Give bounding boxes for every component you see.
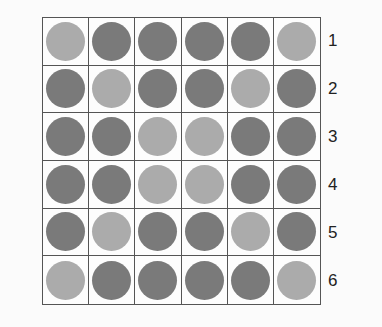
light-circle-icon <box>46 22 85 61</box>
grid-cell <box>135 66 181 114</box>
grid-cell <box>228 18 274 66</box>
grid-cell <box>89 209 135 257</box>
light-circle-icon <box>138 165 177 204</box>
dark-circle-icon <box>92 22 131 61</box>
row-label-3: 3 <box>328 113 358 161</box>
dark-circle-icon <box>185 261 224 300</box>
grid-cell <box>182 66 228 114</box>
row-label-2: 2 <box>328 65 358 113</box>
grid-cell <box>89 18 135 66</box>
dark-circle-icon <box>46 212 85 251</box>
dark-circle-icon <box>277 117 316 156</box>
dark-circle-icon <box>92 117 131 156</box>
grid-cell <box>228 66 274 114</box>
grid-cell <box>228 256 274 304</box>
dark-circle-icon <box>46 69 85 108</box>
grid-cell <box>274 66 320 114</box>
dark-circle-icon <box>185 22 224 61</box>
dark-circle-icon <box>231 165 270 204</box>
row-label-6: 6 <box>328 257 358 305</box>
grid-cell <box>43 66 89 114</box>
grid-cell <box>89 256 135 304</box>
row-label-1: 1 <box>328 17 358 65</box>
dark-circle-icon <box>138 22 177 61</box>
grid-cell <box>43 209 89 257</box>
light-circle-icon <box>138 117 177 156</box>
light-circle-icon <box>92 212 131 251</box>
grid-cell <box>274 161 320 209</box>
light-circle-icon <box>46 261 85 300</box>
grid-cell <box>228 113 274 161</box>
grid-cell <box>274 113 320 161</box>
dark-circle-icon <box>185 212 224 251</box>
dark-circle-icon <box>231 261 270 300</box>
dark-circle-icon <box>185 69 224 108</box>
grid-cell <box>43 256 89 304</box>
grid-cell <box>135 256 181 304</box>
grid-cell <box>228 209 274 257</box>
grid-cell <box>43 18 89 66</box>
grid-cell <box>274 256 320 304</box>
dark-circle-icon <box>138 69 177 108</box>
light-circle-icon <box>277 261 316 300</box>
grid-cell <box>274 18 320 66</box>
grid-cell <box>274 209 320 257</box>
grid-cell <box>135 161 181 209</box>
grid-cell <box>89 161 135 209</box>
grid-cell <box>43 161 89 209</box>
light-circle-icon <box>185 165 224 204</box>
circle-grid <box>42 17 321 305</box>
row-label-5: 5 <box>328 209 358 257</box>
grid-cell <box>89 66 135 114</box>
grid-cell <box>43 113 89 161</box>
grid-cell <box>182 18 228 66</box>
light-circle-icon <box>92 69 131 108</box>
grid-cell <box>135 113 181 161</box>
row-label-4: 4 <box>328 161 358 209</box>
grid-cell <box>135 18 181 66</box>
light-circle-icon <box>231 212 270 251</box>
dark-circle-icon <box>92 165 131 204</box>
light-circle-icon <box>231 69 270 108</box>
dark-circle-icon <box>231 22 270 61</box>
grid-cell <box>182 161 228 209</box>
grid-cell <box>182 209 228 257</box>
grid-cell <box>135 209 181 257</box>
dark-circle-icon <box>138 261 177 300</box>
grid-cell <box>182 256 228 304</box>
grid-cell <box>89 113 135 161</box>
light-circle-icon <box>277 22 316 61</box>
dark-circle-icon <box>277 165 316 204</box>
dark-circle-icon <box>277 69 316 108</box>
dark-circle-icon <box>46 165 85 204</box>
dark-circle-icon <box>231 117 270 156</box>
dark-circle-icon <box>277 212 316 251</box>
row-labels: 1 2 3 4 5 6 <box>328 17 358 305</box>
dark-circle-icon <box>46 117 85 156</box>
grid-cell <box>182 113 228 161</box>
dark-circle-icon <box>138 212 177 251</box>
light-circle-icon <box>185 117 224 156</box>
dark-circle-icon <box>92 261 131 300</box>
grid-cell <box>228 161 274 209</box>
